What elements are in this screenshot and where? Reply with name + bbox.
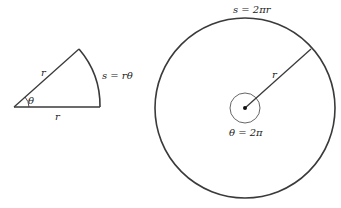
sector-upper-radius [14,49,79,107]
circle-radius-label: r [272,69,278,80]
sector-radius-label-upper: r [41,67,47,78]
circle-angle-label: θ = 2π [229,127,263,138]
sector-angle-label: θ [28,95,34,106]
center-point [243,106,247,110]
radian-measure-diagram: r r θ s = rθ s = 2πr r θ = 2π [0,0,341,208]
sector-arc-label: s = rθ [102,70,133,81]
sector-arc [79,49,100,107]
circle-figure: s = 2πr r θ = 2π [155,4,335,198]
sector-figure: r r θ s = rθ [14,49,133,122]
sector-radius-label-lower: r [55,111,61,122]
circle-arc-label: s = 2πr [233,4,272,15]
circle-radius [245,49,311,108]
